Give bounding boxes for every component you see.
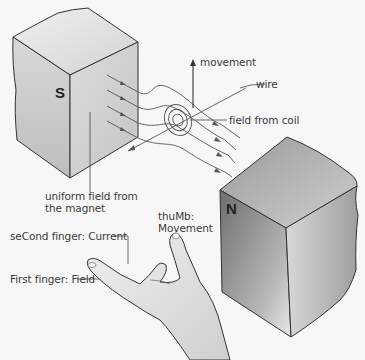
movement-arrow <box>190 59 196 108</box>
first-finger-label: First finger: Field <box>10 273 95 285</box>
uniform-field-label-line2: the magnet <box>45 202 105 214</box>
field-from-coil-label: field from coil <box>229 114 299 126</box>
wire-label: wire <box>256 78 278 90</box>
thumb-label-line2: Movement <box>158 222 213 234</box>
second-finger-label: seCond finger: Current <box>10 230 127 242</box>
diagram-canvas: S N movement wire field from coil unifor… <box>0 0 365 360</box>
north-pole-label: N <box>226 200 237 217</box>
north-magnet <box>220 137 358 337</box>
diagram-artwork <box>0 0 365 360</box>
movement-label: movement <box>200 56 256 68</box>
south-pole-label: S <box>55 84 65 101</box>
left-hand <box>87 233 230 360</box>
thumb-label-line1: thuMb: <box>158 210 194 222</box>
uniform-field-label-line1: uniform field from <box>45 190 138 202</box>
south-magnet <box>13 8 138 178</box>
